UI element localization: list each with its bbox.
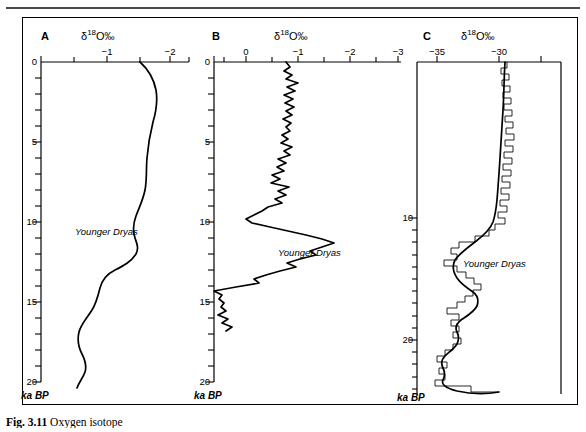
panel-c-smoothed-series (442, 62, 505, 393)
panel-a-plot (23, 18, 198, 406)
top-divider-rule (6, 7, 580, 9)
figure-frame: A δ18O‰ −1 −2 0 5 10 15 20 Younger Dryas… (22, 17, 578, 405)
panel-b-curve (214, 62, 334, 331)
panel-b-plot (198, 18, 401, 406)
panel-a-curve (77, 62, 157, 388)
caption-figure-number: Fig. 3.11 (6, 416, 47, 428)
caption-text: Oxygen isotope (50, 416, 123, 428)
panel-a: A δ18O‰ −1 −2 0 5 10 15 20 Younger Dryas… (23, 18, 198, 404)
panel-c-plot (401, 18, 579, 406)
panel-b: B δ18O‰ 0 −1 −2 −3 0 5 10 15 20 Younger … (198, 18, 401, 404)
figure-caption: Fig. 3.11 Oxygen isotope (6, 416, 406, 428)
panel-c: C δ18O‰ −35 −30 10 20 Younger Dryas ka B… (401, 18, 579, 404)
figure-root: A δ18O‰ −1 −2 0 5 10 15 20 Younger Dryas… (0, 0, 586, 432)
